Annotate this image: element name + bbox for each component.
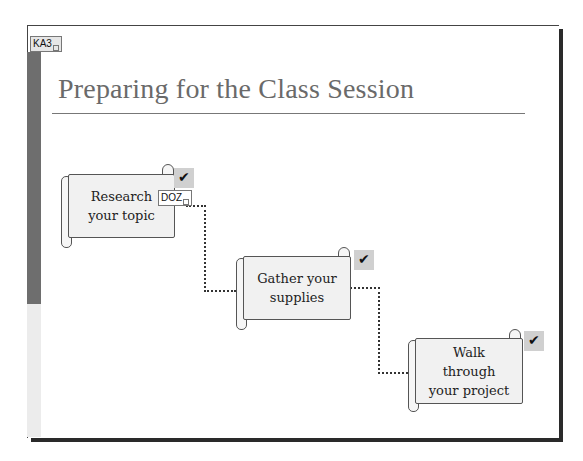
- step-research[interactable]: Research your topic: [68, 174, 175, 238]
- connector-1a: [186, 205, 206, 292]
- step-label: supplies: [257, 288, 337, 307]
- action-button-icon[interactable]: ✔: [354, 250, 374, 270]
- side-accent-bar-dark: [27, 52, 41, 304]
- action-button-icon[interactable]: ✔: [524, 331, 544, 351]
- step-walk-through[interactable]: Walk through your project: [415, 338, 523, 404]
- shape-tag-label: DOZ: [161, 192, 182, 203]
- tag-marker-icon: [183, 199, 189, 205]
- slide-title[interactable]: Preparing for the Class Session: [58, 73, 414, 105]
- connector-2a: [350, 287, 380, 374]
- slide-tag-label: KA3: [33, 38, 52, 49]
- connector-1b: [204, 290, 236, 292]
- step-label: through: [429, 362, 509, 381]
- tag-marker-icon: [53, 45, 59, 51]
- side-accent-bar-light: [27, 304, 41, 437]
- step-gather[interactable]: Gather your supplies: [243, 256, 351, 320]
- step-label: Research: [88, 187, 155, 206]
- slide-tag[interactable]: KA3: [30, 36, 62, 52]
- action-button-icon[interactable]: ✔: [174, 168, 194, 188]
- step-label: your topic: [88, 206, 155, 225]
- connector-2b: [378, 372, 408, 374]
- step-label: Gather your: [257, 269, 337, 288]
- step-label: Walk: [429, 343, 509, 362]
- title-underline: [52, 113, 525, 114]
- shape-tag[interactable]: DOZ: [158, 190, 192, 206]
- step-label: your project: [429, 381, 509, 400]
